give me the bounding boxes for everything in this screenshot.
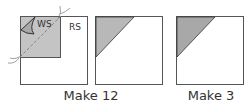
label-make-3: Make 3 bbox=[180, 88, 242, 103]
label-rs: RS bbox=[69, 22, 81, 32]
thread-end-bottom bbox=[8, 55, 22, 63]
label-ws: WS bbox=[37, 19, 52, 29]
label-make-12: Make 12 bbox=[60, 88, 122, 103]
